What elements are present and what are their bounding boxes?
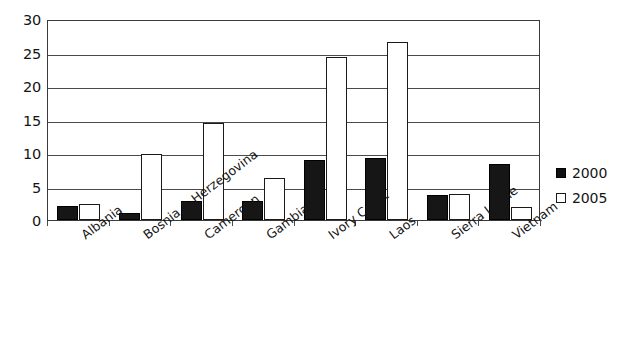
bar[interactable] <box>264 178 285 220</box>
y-tick-label: 15 <box>3 113 41 128</box>
legend-item-2000[interactable]: 2000 <box>556 160 618 185</box>
legend-swatch-2005 <box>556 193 566 203</box>
y-tick-label: 0 <box>3 214 41 229</box>
legend-label-2000: 2000 <box>572 166 607 180</box>
y-tick-label: 25 <box>3 46 41 61</box>
bars-layer <box>48 21 539 220</box>
y-tick-label: 10 <box>3 147 41 162</box>
legend: 2000 2005 <box>556 160 618 210</box>
plot-area <box>47 20 540 221</box>
legend-item-2005[interactable]: 2005 <box>556 185 618 210</box>
bar[interactable] <box>326 57 347 220</box>
cropped-title-remnant <box>300 2 480 8</box>
y-tick-label: 30 <box>3 13 41 28</box>
y-axis: 051015202530 <box>0 20 41 221</box>
bar[interactable] <box>387 42 408 220</box>
bar-chart: 051015202530 AlbaniaBosnia & Herzegovina… <box>0 0 624 361</box>
legend-label-2005: 2005 <box>572 191 607 205</box>
bar[interactable] <box>57 206 78 220</box>
bar[interactable] <box>427 195 448 220</box>
legend-swatch-2000 <box>556 168 566 178</box>
y-tick-label: 5 <box>3 180 41 195</box>
y-tick-label: 20 <box>3 80 41 95</box>
bar[interactable] <box>141 154 162 220</box>
category-tick <box>47 221 48 226</box>
